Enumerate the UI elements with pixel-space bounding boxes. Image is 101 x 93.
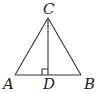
label-c: C bbox=[43, 0, 55, 18]
label-d: D bbox=[42, 75, 55, 93]
segment-ac bbox=[15, 18, 48, 75]
label-a: A bbox=[1, 75, 14, 93]
label-b: B bbox=[83, 75, 95, 93]
segment-bc bbox=[48, 18, 81, 75]
triangle-diagram: C A D B bbox=[0, 0, 101, 93]
